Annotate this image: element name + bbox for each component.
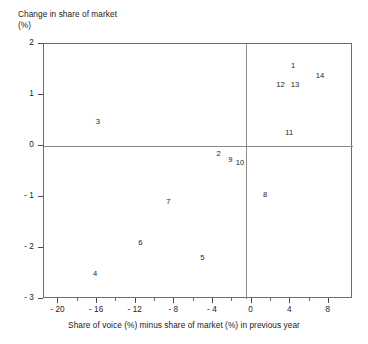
data-point-label: 2 [217,149,221,158]
y-axis-tick [38,145,43,146]
x-axis-tick-label: 8 [311,305,345,314]
data-point-label: 4 [93,268,97,277]
data-point-label: 12 [276,79,285,88]
data-point-label: 14 [316,71,325,80]
scatter-chart-figure: Change in share of market (%) 210- 1- 2-… [0,0,368,344]
y-axis-tick-label: - 3 [8,293,34,302]
plot-area [43,43,352,298]
y-axis-tick-label: - 2 [8,242,34,251]
x-axis-tick-label: - 16 [79,305,113,314]
y-axis-title: Change in share of market [18,9,117,20]
data-point-label: 5 [200,253,204,262]
y-axis-tick [38,43,43,44]
x-axis-title: Share of voice (%) minus share of market… [0,320,368,330]
zero-vertical-reference-line [246,44,247,299]
x-axis-tick-label: - 8 [156,305,190,314]
x-axis-minor-tick [115,298,116,301]
x-axis-tick [57,298,58,303]
zero-horizontal-reference-line [44,146,353,147]
x-axis-minor-tick [270,298,271,301]
data-point-label: 6 [138,237,142,246]
y-axis-tick-label: 2 [8,38,34,47]
data-point-label: 8 [263,189,267,198]
y-axis-unit: (%) [18,20,31,31]
x-axis-minor-tick [309,298,310,301]
x-axis-tick [289,298,290,303]
data-point-label: 7 [166,197,170,206]
y-axis-tick [38,247,43,248]
y-axis-tick-label: - 1 [8,191,34,200]
x-axis-minor-tick [154,298,155,301]
x-axis-minor-tick [231,298,232,301]
x-axis-tick-label: 4 [272,305,306,314]
data-point-label: 13 [291,79,300,88]
y-axis-tick [38,196,43,197]
x-axis-tick [328,298,329,303]
x-axis-minor-tick [193,298,194,301]
x-axis-tick [96,298,97,303]
x-axis-tick [135,298,136,303]
x-axis-tick-label: - 12 [118,305,152,314]
x-axis-tick [251,298,252,303]
x-axis-tick-label: - 20 [40,305,74,314]
x-axis-tick [212,298,213,303]
data-point-label: 9 [228,154,232,163]
data-point-label: 10 [236,157,245,166]
data-point-label: 3 [96,117,100,126]
x-axis-tick [173,298,174,303]
y-axis-tick [38,298,43,299]
data-point-label: 11 [285,128,293,137]
x-axis-minor-tick [77,298,78,301]
data-point-label: 1 [291,60,295,69]
y-axis-tick-label: 0 [8,140,34,149]
y-axis-tick-label: 1 [8,89,34,98]
x-axis-tick-label: 0 [234,305,268,314]
x-axis-tick-label: - 4 [195,305,229,314]
y-axis-tick [38,94,43,95]
